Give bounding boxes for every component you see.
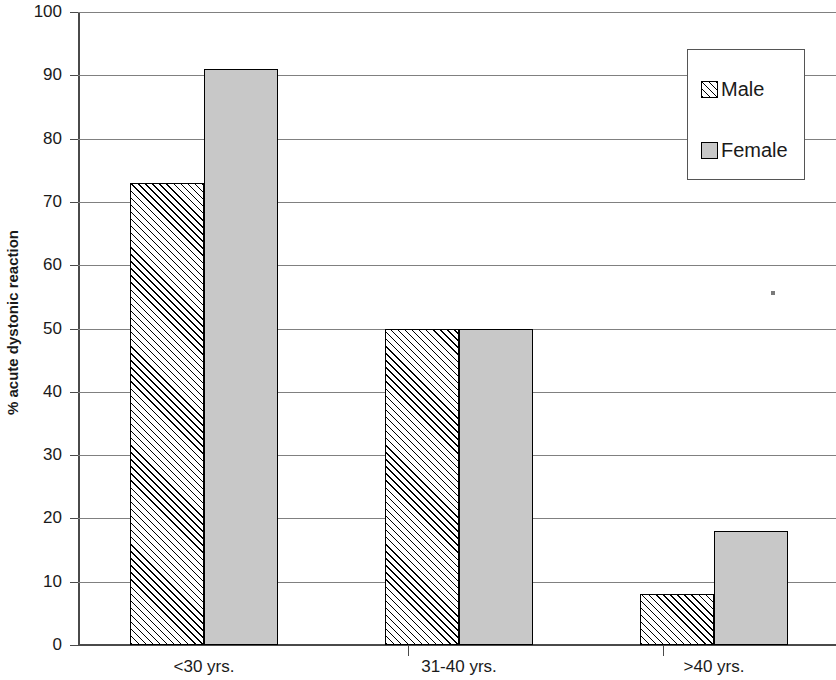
- legend-item-female[interactable]: Female: [701, 140, 788, 160]
- bar-male-1: [385, 329, 459, 646]
- y-tick-mark: [70, 518, 78, 519]
- y-tick-mark: [70, 645, 78, 646]
- x-tick-label-0: <30 yrs.: [124, 657, 284, 676]
- y-tick-label: 50: [0, 320, 62, 337]
- y-tick-mark: [70, 12, 78, 13]
- legend-label-male: Male: [721, 79, 764, 99]
- y-tick-mark: [70, 265, 78, 266]
- y-tick-label: 100: [0, 3, 62, 20]
- y-tick-mark: [70, 202, 78, 203]
- y-tick-label: 90: [0, 66, 62, 83]
- y-tick-label: 10: [0, 573, 62, 590]
- y-tick-label: 70: [0, 193, 62, 210]
- bar-chart: % acute dystonic reaction 01020304050607…: [0, 0, 836, 680]
- scan-artifact-speck: [771, 291, 775, 295]
- y-tick-label: 20: [0, 509, 62, 526]
- y-tick-label: 60: [0, 256, 62, 273]
- y-tick-label: 80: [0, 130, 62, 147]
- bar-female-0: [204, 69, 278, 645]
- y-tick-mark: [70, 329, 78, 330]
- legend-swatch-female-icon: [701, 142, 718, 159]
- x-tick-label-1: 31-40 yrs.: [379, 657, 539, 676]
- bar-female-1: [459, 329, 533, 646]
- gridline: [78, 12, 836, 13]
- chart-legend: Male Female: [687, 49, 805, 180]
- y-tick-label: 0: [0, 636, 62, 653]
- bar-male-2: [640, 594, 714, 645]
- x-tick-label-2: >40 yrs.: [634, 657, 794, 676]
- x-tick-mark: [408, 645, 409, 656]
- bar-female-2: [714, 531, 788, 645]
- legend-swatch-male-icon: [701, 81, 718, 98]
- y-tick-mark: [70, 392, 78, 393]
- y-tick-mark: [70, 455, 78, 456]
- y-tick-label: 40: [0, 383, 62, 400]
- x-tick-mark: [663, 645, 664, 656]
- y-tick-mark: [70, 75, 78, 76]
- legend-item-male[interactable]: Male: [701, 79, 764, 99]
- y-tick-mark: [70, 582, 78, 583]
- y-tick-label: 30: [0, 446, 62, 463]
- y-tick-mark: [70, 139, 78, 140]
- bar-male-0: [130, 183, 204, 645]
- legend-label-female: Female: [721, 140, 788, 160]
